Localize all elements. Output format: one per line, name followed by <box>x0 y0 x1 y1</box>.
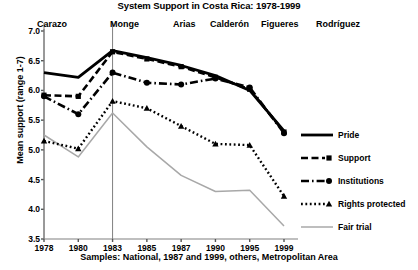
marker-triangle <box>326 201 332 207</box>
legend-label: Institutions <box>338 176 384 186</box>
series-fair-trial <box>44 113 284 226</box>
marker-triangle <box>41 138 47 144</box>
legend-item-institutions[interactable]: Institutions <box>300 175 384 187</box>
series-pride <box>44 51 284 131</box>
legend-label: Fair trial <box>338 222 372 232</box>
y-tick-label: 6.5 <box>14 56 40 66</box>
series-institutions <box>41 70 287 137</box>
legend-swatch <box>300 198 334 210</box>
series-line <box>44 52 284 132</box>
president-label: Figueres <box>261 19 299 29</box>
marker-triangle <box>144 105 150 111</box>
chart-footnote: Samples: National, 1987 and 1999, others… <box>0 252 418 262</box>
president-label: Rodríguez <box>316 19 360 29</box>
marker-circle <box>178 81 184 87</box>
y-tick-label: 5.0 <box>14 145 40 155</box>
legend-item-rights-protected[interactable]: Rights protected <box>300 198 406 210</box>
marker-triangle <box>281 193 287 199</box>
legend-item-pride[interactable]: Pride <box>300 129 359 141</box>
marker-circle <box>110 70 116 76</box>
series-line <box>44 113 284 226</box>
series-line <box>44 73 284 134</box>
marker-triangle <box>109 98 115 104</box>
marker-square <box>76 94 81 99</box>
marker-circle <box>326 178 332 184</box>
y-tick-label: 7.0 <box>14 26 40 36</box>
y-tick-label: 4.0 <box>14 204 40 214</box>
marker-triangle <box>75 145 81 151</box>
chart-figure: System Support in Costa Rica: 1978-1999 … <box>0 0 418 270</box>
marker-circle <box>75 111 81 117</box>
series-line <box>44 51 284 131</box>
president-label: Monge <box>110 19 139 29</box>
y-tick-label: 6.0 <box>14 85 40 95</box>
legend-label: Pride <box>338 130 359 140</box>
legend-item-fair-trial[interactable]: Fair trial <box>300 221 372 233</box>
marker-square <box>326 155 331 160</box>
legend-label: Support <box>338 153 371 163</box>
legend-swatch <box>300 152 334 164</box>
legend-label: Rights protected <box>338 199 406 209</box>
marker-square <box>41 93 46 98</box>
legend-swatch <box>300 175 334 187</box>
legend-item-support[interactable]: Support <box>300 152 371 164</box>
chart-title: System Support in Costa Rica: 1978-1999 <box>0 0 418 11</box>
marker-circle <box>144 80 150 86</box>
legend-swatch <box>300 129 334 141</box>
president-label: Calderón <box>210 19 249 29</box>
legend-swatch <box>300 221 334 233</box>
president-label: Carazo <box>37 19 67 29</box>
y-tick-label: 4.5 <box>14 175 40 185</box>
y-tick-label: 5.5 <box>14 115 40 125</box>
president-label: Arias <box>173 19 196 29</box>
